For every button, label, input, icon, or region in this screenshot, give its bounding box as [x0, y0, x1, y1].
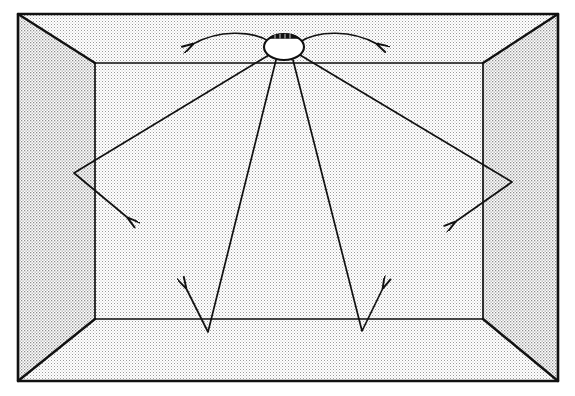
left-wall-surface	[18, 14, 95, 381]
floor-surface	[18, 319, 558, 381]
diagram-canvas	[0, 0, 575, 396]
room-surfaces	[18, 14, 558, 381]
fixture-mounting-bracket	[270, 34, 298, 38]
ceiling-light-fixture	[264, 34, 304, 60]
room-light-diagram	[0, 0, 575, 396]
right-wall-surface	[483, 14, 558, 381]
back-wall-surface	[95, 63, 483, 319]
